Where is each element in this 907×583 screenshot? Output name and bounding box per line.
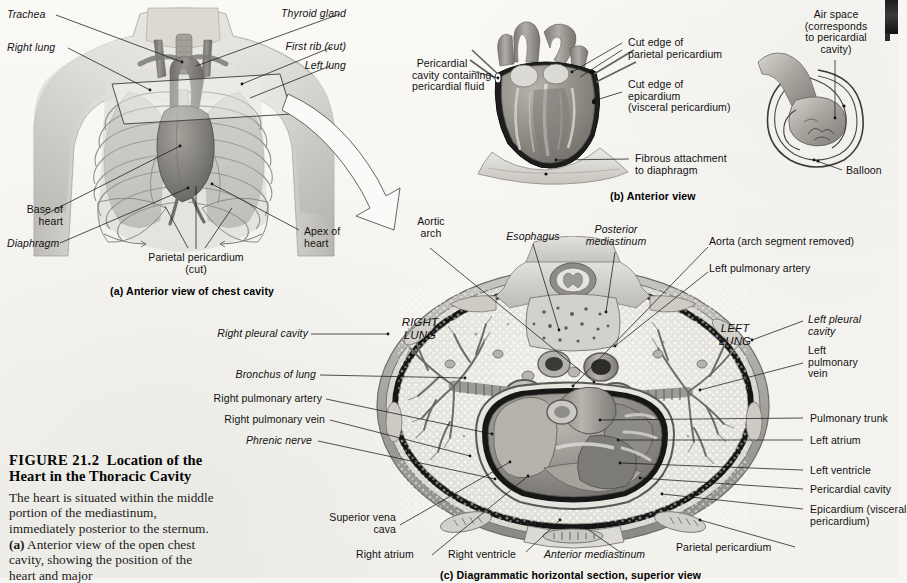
label-right-pulmonary-vein: Right pulmonary vein	[195, 414, 325, 426]
panel-c-artwork	[358, 236, 818, 566]
organ-label-left-lung: LEFT LUNG	[709, 322, 761, 348]
label-balloon: Balloon	[846, 165, 882, 177]
label-left-pulmonary-artery: Left pulmonary artery	[709, 263, 810, 275]
label-first-rib: First rib (cut)	[254, 41, 346, 53]
panel-b-caption: (b) Anterior view	[610, 190, 696, 202]
label-esophagus: Esophagus	[492, 231, 574, 243]
caption-part-a-marker: (a)	[9, 537, 25, 552]
label-aortic-arch: Aortic arch	[405, 216, 457, 239]
label-apex-of-heart: Apex of heart	[304, 226, 340, 249]
label-epicardium-visceral: Epicardium (visceral pericardium)	[810, 504, 907, 527]
label-anterior-mediastinum: Anterior mediastinum	[544, 549, 645, 561]
label-bronchus-of-lung: Bronchus of lung	[190, 369, 316, 381]
label-base-of-heart: Base of heart	[7, 204, 63, 227]
label-air-space: Air space (corresponds to pericardial ca…	[784, 9, 888, 55]
label-diaphragm: Diaphragm	[7, 238, 59, 250]
label-right-ventricle: Right ventricle	[448, 549, 516, 561]
label-fibrous-attachment-diaphragm: Fibrous attachment to diaphragm	[635, 153, 727, 176]
label-parietal-pericardium-cut: Parietal pericardium (cut)	[116, 252, 276, 275]
label-posterior-mediastinum: Posterior mediastinum	[570, 224, 662, 247]
label-right-pleural-cavity: Right pleural cavity	[180, 328, 308, 340]
panel-a-caption: (a) Anterior view of chest cavity	[110, 285, 274, 297]
label-right-lung: Right lung	[7, 42, 55, 54]
label-left-pulmonary-vein: Left pulmonary vein	[808, 345, 858, 380]
figure-number: FIGURE 21.2	[9, 452, 99, 468]
organ-label-right-lung: RIGHT LUNG	[392, 316, 448, 342]
caption-part-1: The heart is situated within the middle …	[9, 490, 214, 536]
panel-b-artwork	[468, 18, 638, 194]
label-aorta-arch-removed: Aorta (arch segment removed)	[709, 236, 854, 248]
figure-caption-block: FIGURE 21.2 Location of the Heart in the…	[9, 452, 215, 583]
label-pulmonary-trunk: Pulmonary trunk	[810, 413, 888, 425]
label-superior-vena-cava: Superior vena cava	[316, 512, 396, 535]
label-phrenic-nerve: Phrenic nerve	[210, 435, 312, 447]
figure-caption-body: The heart is situated within the middle …	[9, 490, 215, 583]
label-thyroid-gland: Thyroid gland	[264, 8, 346, 20]
label-right-atrium: Right atrium	[356, 549, 414, 561]
label-left-ventricle: Left ventricle	[810, 465, 871, 477]
label-parietal-pericardium: Parietal pericardium	[676, 542, 771, 554]
label-cut-edge-parietal-pericardium: Cut edge of parietal pericardium	[628, 37, 722, 60]
label-left-pleural-cavity: Left pleural cavity	[808, 314, 861, 337]
label-right-pulmonary-artery: Right pulmonary artery	[190, 393, 322, 405]
caption-part-2: Anterior view of the open chest cavity, …	[9, 537, 195, 583]
transition-arrow	[282, 88, 422, 248]
label-cut-edge-epicardium: Cut edge of epicardium (visceral pericar…	[628, 79, 731, 114]
label-pericardial-cavity-fluid: Pericardial cavity containing pericardia…	[412, 58, 472, 93]
label-left-lung: Left lung	[276, 60, 346, 72]
label-pericardial-cavity: Pericardial cavity	[810, 484, 891, 496]
label-left-atrium: Left atrium	[810, 435, 861, 447]
label-trachea: Trachea	[7, 9, 45, 21]
figure-title-line: FIGURE 21.2 Location of the Heart in the…	[9, 452, 215, 485]
panel-c-caption: (c) Diagrammatic horizontal section, sup…	[440, 569, 701, 581]
